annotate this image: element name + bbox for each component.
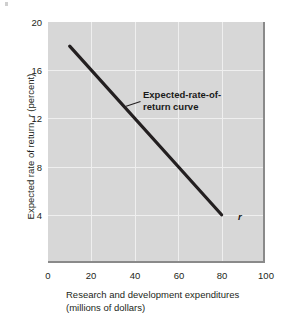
x-axis-tick-60: 60 <box>164 270 194 281</box>
x-axis-title-line2: (millions of dollars) <box>66 302 296 315</box>
x-axis-tick-20: 20 <box>76 270 106 281</box>
x-axis-tick-40: 40 <box>120 270 150 281</box>
gridline-vertical-80 <box>222 22 223 261</box>
y-axis-title: Expected rate of return, r (percent) <box>25 44 36 250</box>
curve-annotation: Expected-rate-of- return curve <box>143 89 247 113</box>
gridline-horizontal-4 <box>48 215 263 216</box>
curve-annotation-line2: return curve <box>143 101 247 113</box>
gridline-vertical-20 <box>91 22 92 261</box>
gridline-horizontal-12 <box>48 118 263 119</box>
y-axis-title-prefix: Expected rate of return, <box>25 117 36 219</box>
gridline-vertical-60 <box>178 22 179 261</box>
y-axis-tick-20: 20 <box>16 17 42 28</box>
x-axis-tick-80: 80 <box>207 270 237 281</box>
chart-figure: Expected-rate-of- return curve r 20 16 1… <box>0 0 307 325</box>
gridline-horizontal-16 <box>48 70 263 71</box>
y-axis-title-symbol: r <box>25 114 36 117</box>
plot-area <box>48 22 265 263</box>
x-axis-title: Research and development expenditures (m… <box>66 289 296 314</box>
gridline-vertical-40 <box>135 22 136 261</box>
scan-artifact <box>5 2 8 6</box>
gridline-horizontal-8 <box>48 167 263 168</box>
curve-annotation-line1: Expected-rate-of- <box>143 89 247 101</box>
x-axis-tick-0: 0 <box>33 270 63 281</box>
x-axis-tick-100: 100 <box>251 270 281 281</box>
y-axis-title-suffix: (percent) <box>25 74 36 115</box>
curve-endpoint-label: r <box>238 211 242 222</box>
x-axis-title-line1: Research and development expenditures <box>66 289 296 302</box>
